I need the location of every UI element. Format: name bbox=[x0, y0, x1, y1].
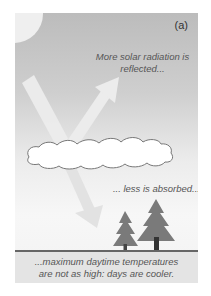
transmitted-radiation-arrow bbox=[65, 165, 103, 228]
ground-caption-line-2: are not as high: days are cooler. bbox=[15, 268, 198, 280]
cloud-icon bbox=[28, 138, 173, 170]
ground-caption: ...maximum daytime temperatures are not … bbox=[15, 256, 198, 280]
small-tree-icon bbox=[113, 211, 138, 251]
diagram-panel: (a) More solar radiation is reflected...… bbox=[15, 13, 198, 283]
panel-label: (a) bbox=[175, 19, 188, 31]
reflected-caption: More solar radiation is reflected... bbox=[85, 51, 198, 75]
ground-caption-line-1: ...maximum daytime temperatures bbox=[15, 256, 198, 268]
large-tree-icon bbox=[137, 199, 175, 251]
absorbed-caption: ... less is absorbed... bbox=[110, 183, 198, 195]
